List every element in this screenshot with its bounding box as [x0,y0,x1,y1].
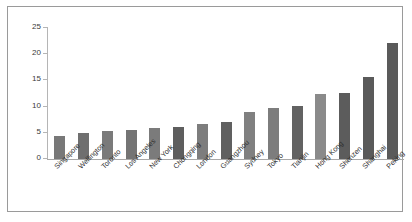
chart-frame: SingaporeWellingtonTorontoLos AngelesNew… [7,6,403,212]
y-axis-tick-label-text: 0 [11,154,41,162]
y-axis-tick [43,132,48,133]
y-axis-tick [43,53,48,54]
y-axis-tick [43,158,48,159]
y-axis-tick-label: 5 [8,128,41,136]
x-axis-tick [368,160,369,164]
y-axis-tick [43,106,48,107]
x-axis-tick [107,160,108,164]
y-axis-tick [43,79,48,80]
x-axis-tick [273,160,274,164]
x-axis-tick [250,160,251,164]
y-axis-tick-label: 25 [8,23,41,31]
y-axis-tick-label-text: 25 [11,23,41,31]
x-axis-tick [179,160,180,164]
y-axis-tick-label-text: 20 [11,49,41,57]
y-axis-tick-label: 0 [8,154,41,162]
x-axis-tick [84,160,85,164]
bars-layer [48,28,404,159]
x-axis-tick [131,160,132,164]
y-axis-tick [43,27,48,28]
bar-shanghai [363,77,374,159]
x-axis-tick [226,160,227,164]
x-axis-tick [297,160,298,164]
x-axis-tick [155,160,156,164]
x-axis-tick [392,160,393,164]
bar-hong-kong [315,94,326,159]
x-axis-tick [202,160,203,164]
y-axis-tick-label: 20 [8,49,41,57]
y-axis-tick-label-text: 5 [11,128,41,136]
y-axis-tick-label-text: 15 [11,75,41,83]
x-axis-tick [60,160,61,164]
x-axis-category-labels: SingaporeWellingtonTorontoLos AngelesNew… [48,165,404,221]
x-axis-tick [321,160,322,164]
y-axis-tick-label-text: 10 [11,102,41,110]
y-axis-tick-label: 10 [8,102,41,110]
x-axis-tick [345,160,346,164]
y-axis-tick-label: 15 [8,75,41,83]
bar-peking [387,43,398,159]
chart-screenshot: SingaporeWellingtonTorontoLos AngelesNew… [0,0,412,222]
